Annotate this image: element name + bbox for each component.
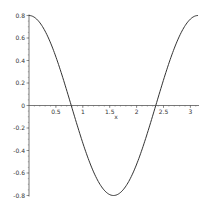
x-tick-label: 3 [188,108,192,115]
x-tick-label: 1 [81,108,85,115]
y-tick-label: -0.8 [13,192,25,199]
axes [29,15,199,197]
y-tick-label: -0.6 [13,169,25,176]
y-tick-label: 0 [21,102,25,109]
y-tick-label: 0.2 [15,79,25,86]
y-tick-label: 0.6 [15,34,25,41]
y-tick-label: 0.4 [15,57,25,64]
tick-labels: 0.80.60.40.20-0.2-0.4-0.6-0.80.511.522.5… [13,12,192,199]
x-axis-label: x [114,113,118,120]
x-tick-label: 2.5 [159,108,169,115]
line-chart: 0.80.60.40.20-0.2-0.4-0.6-0.80.511.522.5… [0,0,208,201]
x-tick-label: 0.5 [51,108,61,115]
x-tick-label: 1.5 [105,108,115,115]
y-tick-label: -0.2 [13,124,25,131]
y-tick-label: 0.8 [15,12,25,19]
y-tick-label: -0.4 [13,147,25,154]
x-tick-label: 2 [135,108,139,115]
